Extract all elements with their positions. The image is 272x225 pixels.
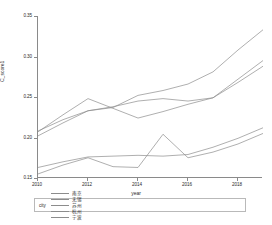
plot-area	[37, 16, 262, 178]
x-tick-mark	[237, 178, 238, 181]
series-lines	[38, 16, 263, 178]
x-tick-label: 2012	[82, 182, 92, 187]
series-line	[38, 128, 263, 168]
legend: city 南京无锡苏州杭州宁波	[34, 198, 246, 212]
x-tick-mark	[187, 178, 188, 181]
legend-swatch	[51, 199, 69, 200]
x-tick-mark	[87, 178, 88, 181]
y-tick-label: 0.30	[23, 54, 32, 59]
legend-label: 宁波	[72, 214, 82, 220]
legend-swatch	[51, 193, 69, 194]
x-tick-label: 2014	[132, 182, 142, 187]
x-axis-title: year	[0, 190, 272, 196]
x-tick-mark	[37, 178, 38, 181]
chart-root: C_score1 0.150.200.250.300.35 2010201220…	[0, 0, 272, 225]
series-line	[38, 61, 263, 132]
x-tick-label: 2010	[32, 182, 42, 187]
x-tick-label: 2016	[182, 182, 192, 187]
y-tick-label: 0.35	[23, 13, 32, 18]
legend-swatch	[51, 205, 69, 206]
series-line	[38, 133, 263, 174]
series-line	[38, 30, 263, 131]
legend-swatch	[51, 217, 69, 218]
legend-title: city	[39, 203, 46, 208]
y-axis-title: C_score1	[0, 61, 5, 82]
y-tick-label: 0.20	[23, 135, 32, 140]
legend-swatch	[51, 211, 69, 212]
y-tick-label: 0.15	[23, 175, 32, 180]
legend-entries: 南京无锡苏州杭州宁波	[51, 190, 86, 220]
series-line	[38, 66, 263, 136]
legend-entry: 宁波	[51, 214, 82, 220]
x-tick-label: 2018	[232, 182, 242, 187]
y-tick-label: 0.25	[23, 94, 32, 99]
x-tick-mark	[137, 178, 138, 181]
